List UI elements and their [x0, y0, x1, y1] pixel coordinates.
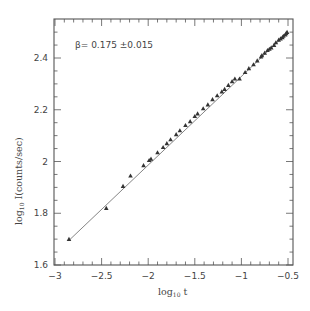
y-tick-label: 2.2 [34, 105, 48, 115]
x-axis-label: log10 t [158, 286, 188, 298]
triangle-marker [201, 106, 206, 110]
triangle-marker [222, 87, 227, 91]
triangle-marker [206, 102, 211, 106]
triangle-marker [161, 145, 166, 149]
x-tick-label: −0.5 [277, 271, 299, 281]
scatter-chart: −3−2.5−2−1.5−1−0.51.61.822.22.4 β= 0.175… [0, 0, 310, 311]
triangle-marker [183, 123, 188, 127]
y-tick-label: 1.8 [34, 208, 49, 218]
y-tick-label: 2 [42, 157, 48, 167]
triangle-marker [178, 128, 183, 132]
fit-line [69, 32, 288, 240]
x-tick-label: −1.5 [184, 271, 206, 281]
y-tick-label: 1.6 [34, 260, 49, 270]
triangle-marker [128, 173, 133, 177]
triangle-marker [168, 137, 173, 141]
triangle-marker [215, 93, 220, 97]
triangle-marker [174, 132, 179, 136]
triangle-marker [285, 30, 290, 34]
triangle-marker [121, 184, 126, 188]
plot-border [54, 19, 293, 265]
x-tick-label: −1 [235, 271, 248, 281]
y-axis-label: log10 I(counts/sec) [13, 137, 25, 225]
tick-labels: −3−2.5−2−1.5−1−0.51.61.822.22.4 [34, 53, 299, 281]
triangle-marker [243, 70, 248, 74]
data-points [67, 30, 290, 241]
axis-ticks [54, 19, 293, 265]
triangle-marker [195, 111, 200, 115]
triangle-marker [141, 163, 146, 167]
plot-frame [54, 19, 293, 265]
triangle-marker [233, 76, 238, 80]
x-tick-label: −2.5 [91, 271, 113, 281]
triangle-marker [155, 150, 160, 154]
beta-annotation: β= 0.175 ±0.015 [75, 40, 153, 50]
x-tick-label: −2 [142, 271, 155, 281]
x-tick-label: −3 [48, 271, 61, 281]
triangle-marker [226, 83, 231, 87]
y-tick-label: 2.4 [34, 53, 49, 63]
triangle-marker [251, 62, 256, 66]
triangle-marker [165, 141, 170, 145]
triangle-marker [188, 119, 193, 123]
triangle-marker [210, 97, 215, 101]
